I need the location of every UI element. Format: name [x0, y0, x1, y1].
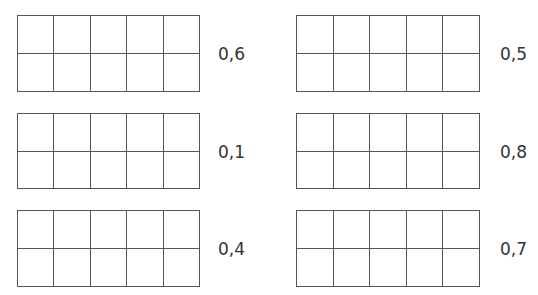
grid-cell[interactable]	[91, 16, 127, 54]
grid-cell[interactable]	[370, 16, 407, 54]
grid-cell[interactable]	[407, 249, 444, 287]
grid-cell[interactable]	[407, 16, 444, 54]
grid-cell[interactable]	[443, 249, 480, 287]
decimal-label: 0,6	[218, 46, 245, 63]
grid-cell[interactable]	[443, 114, 480, 152]
grid-cell[interactable]	[370, 211, 407, 249]
grid-cell[interactable]	[164, 249, 200, 287]
tenths-grid	[296, 113, 480, 189]
grid-cell[interactable]	[127, 54, 163, 92]
decimal-label: 0,4	[218, 241, 245, 258]
grid-cell[interactable]	[91, 114, 127, 152]
grid-cell[interactable]	[370, 152, 407, 190]
tenths-grid	[17, 15, 200, 92]
grid-cell[interactable]	[91, 54, 127, 92]
grid-cell[interactable]	[334, 249, 371, 287]
grid-cell[interactable]	[370, 114, 407, 152]
grid-cell[interactable]	[127, 114, 163, 152]
grid-cell[interactable]	[18, 16, 54, 54]
grid-cell[interactable]	[18, 152, 54, 190]
grid-cell[interactable]	[91, 152, 127, 190]
grid-cell[interactable]	[127, 211, 163, 249]
grid-cell[interactable]	[407, 114, 444, 152]
grid-cell[interactable]	[370, 54, 407, 92]
grid-cell[interactable]	[127, 16, 163, 54]
tenths-grid	[296, 15, 480, 92]
grid-cell[interactable]	[164, 54, 200, 92]
grid-cell[interactable]	[334, 16, 371, 54]
grid-cell[interactable]	[18, 249, 54, 287]
grid-cell[interactable]	[297, 114, 334, 152]
grid-cell[interactable]	[164, 152, 200, 190]
grid-cell[interactable]	[297, 152, 334, 190]
grid-cell[interactable]	[334, 114, 371, 152]
grid-cell[interactable]	[164, 16, 200, 54]
tenths-grid	[17, 113, 200, 189]
tenths-grid	[17, 210, 200, 287]
grid-cell[interactable]	[297, 211, 334, 249]
grid-cell[interactable]	[164, 211, 200, 249]
grid-cell[interactable]	[54, 114, 90, 152]
grid-cell[interactable]	[91, 249, 127, 287]
grid-cell[interactable]	[407, 152, 444, 190]
grid-cell[interactable]	[443, 54, 480, 92]
grid-cell[interactable]	[127, 152, 163, 190]
grid-cell[interactable]	[91, 211, 127, 249]
decimal-label: 0,7	[500, 241, 527, 258]
grid-cell[interactable]	[407, 54, 444, 92]
grid-cell[interactable]	[54, 211, 90, 249]
grid-cell[interactable]	[334, 211, 371, 249]
grid-cell[interactable]	[370, 249, 407, 287]
grid-cell[interactable]	[297, 54, 334, 92]
grid-cell[interactable]	[18, 114, 54, 152]
grid-cell[interactable]	[54, 249, 90, 287]
decimal-label: 0,1	[218, 144, 245, 161]
grid-cell[interactable]	[54, 16, 90, 54]
grid-cell[interactable]	[54, 152, 90, 190]
grid-cell[interactable]	[164, 114, 200, 152]
grid-cell[interactable]	[334, 152, 371, 190]
grid-cell[interactable]	[443, 152, 480, 190]
grid-cell[interactable]	[18, 211, 54, 249]
grid-cell[interactable]	[334, 54, 371, 92]
grid-cell[interactable]	[443, 211, 480, 249]
grid-cell[interactable]	[407, 211, 444, 249]
tenths-grid	[296, 210, 480, 287]
grid-cell[interactable]	[297, 249, 334, 287]
decimal-label: 0,8	[500, 144, 527, 161]
decimal-label: 0,5	[500, 46, 527, 63]
grid-cell[interactable]	[18, 54, 54, 92]
grid-cell[interactable]	[443, 16, 480, 54]
grid-cell[interactable]	[54, 54, 90, 92]
grid-cell[interactable]	[297, 16, 334, 54]
grid-cell[interactable]	[127, 249, 163, 287]
